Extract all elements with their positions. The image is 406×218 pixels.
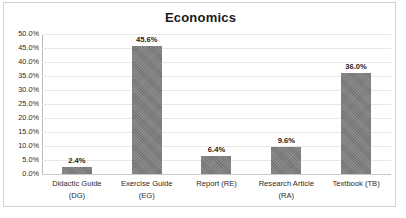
y-axis-tick-label: 25.0%	[5, 100, 39, 108]
x-axis-category-label-line: Textbook (TB)	[321, 178, 391, 190]
chart-title: Economics	[4, 10, 397, 25]
bar-value-label: 45.6%	[136, 35, 158, 44]
chart-container: Economics 0.0%5.0%10.0%15.0%20.0%25.0%30…	[3, 2, 396, 207]
x-axis-category-label-line: Exercise Guide	[112, 178, 182, 190]
x-axis-category-label-line: (DG)	[42, 190, 112, 202]
y-axis-tick-label: 15.0%	[5, 128, 39, 136]
bar[interactable]	[62, 167, 92, 174]
x-axis-category-label-line: Didactic Guide	[42, 178, 112, 190]
bar[interactable]	[341, 73, 371, 174]
bar-value-label: 36.0%	[345, 62, 367, 71]
bar[interactable]	[201, 156, 231, 174]
x-axis-category-label: Report (RE)	[182, 178, 252, 190]
bar-value-label: 2.4%	[68, 156, 85, 165]
y-axis-tick-label: 40.0%	[5, 58, 39, 66]
y-axis-tick-label: 50.0%	[5, 30, 39, 38]
bar-slot: 9.6%	[251, 34, 321, 174]
y-axis-tick-label: 0.0%	[5, 170, 39, 178]
x-axis-category-label: Textbook (TB)	[321, 178, 391, 190]
y-axis-tick-label: 30.0%	[5, 86, 39, 94]
x-axis-category-label: Exercise Guide(EG)	[112, 178, 182, 201]
bar-value-label: 9.6%	[278, 136, 295, 145]
bar-slot: 36.0%	[321, 34, 391, 174]
x-axis-category-label: Research Article(RA)	[251, 178, 321, 201]
bar-slot: 6.4%	[182, 34, 252, 174]
gridline	[42, 174, 391, 175]
y-axis-tick-label: 45.0%	[5, 44, 39, 52]
x-axis-category-labels: Didactic Guide(DG)Exercise Guide(EG)Repo…	[42, 178, 391, 208]
y-axis-tick-label: 5.0%	[5, 156, 39, 164]
x-axis-category-label-line: Research Article	[251, 178, 321, 190]
bar-value-label: 6.4%	[208, 145, 225, 154]
y-axis-tick-labels: 0.0%5.0%10.0%15.0%20.0%25.0%30.0%35.0%40…	[4, 34, 39, 174]
x-axis-category-label-line: (EG)	[112, 190, 182, 202]
y-axis-tick-label: 20.0%	[5, 114, 39, 122]
bar-slot: 2.4%	[42, 34, 112, 174]
y-axis-tick-label: 10.0%	[5, 142, 39, 150]
y-axis-tick-label: 35.0%	[5, 72, 39, 80]
x-axis-category-label-line: Report (RE)	[182, 178, 252, 190]
bar[interactable]	[271, 147, 301, 174]
bar[interactable]	[132, 46, 162, 174]
x-axis-category-label: Didactic Guide(DG)	[42, 178, 112, 201]
bar-slot: 45.6%	[112, 34, 182, 174]
x-axis-category-label-line: (RA)	[251, 190, 321, 202]
plot-area: 2.4%45.6%6.4%9.6%36.0%	[42, 34, 391, 174]
